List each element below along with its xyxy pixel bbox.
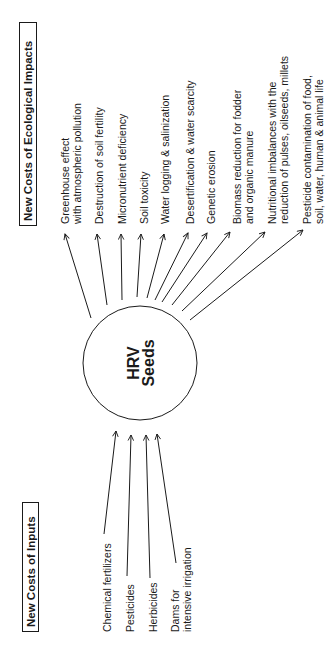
input-arrow	[157, 434, 176, 563]
input-label: Chemical fertilizers	[101, 543, 113, 632]
input-item: Herbicides	[146, 435, 159, 632]
output-label: with atmospheric pollution	[71, 103, 83, 225]
output-label: and organic manure	[243, 130, 255, 224]
output-label: Greenhouse effect	[59, 138, 71, 224]
output-arrow	[97, 234, 107, 305]
output-item: Soil toxicity	[137, 171, 150, 297]
input-item: Dams forintensive irrigation	[157, 434, 193, 632]
output-arrow	[121, 234, 122, 300]
inputs-header: New Costs of Inputs	[23, 503, 39, 632]
output-item: Destruction of soil fertility	[93, 107, 108, 305]
output-item: Micronutrient deficiency	[116, 113, 128, 300]
output-label: Biomass reduction for fodder	[231, 89, 243, 224]
output-arrow	[147, 234, 164, 298]
input-arrow	[127, 435, 131, 576]
outputs-header: New Costs of Ecological Impacts	[20, 23, 37, 226]
output-label: reduction of pulses, oilseeds, millets	[278, 56, 290, 224]
input-label: Pesticides	[124, 584, 136, 632]
inputs-header-text: New Costs of Inputs	[25, 516, 37, 627]
input-label: Herbicides	[147, 582, 159, 632]
output-label: Water logging & salinization	[159, 95, 171, 224]
output-items: Greenhouse effectwith atmospheric pollut…	[59, 56, 325, 320]
output-label: Nutritional imbalances with the	[266, 81, 278, 224]
input-arrow	[104, 431, 116, 534]
input-item: Chemical fertilizers	[101, 431, 117, 632]
output-label: Destruction of soil fertility	[93, 107, 105, 224]
output-arrow	[155, 233, 188, 300]
hrv-seeds-diagram: New Costs of Ecological Impacts New Cost…	[0, 0, 333, 662]
input-item: Pesticides	[124, 435, 136, 632]
output-arrow	[137, 234, 141, 297]
output-arrow	[162, 233, 207, 302]
outputs-header-text: New Costs of Ecological Impacts	[22, 41, 34, 221]
output-item: Water logging & salinization	[147, 95, 171, 298]
center-node: HRV Seeds	[83, 306, 197, 420]
output-label: soil, water, human & animal life	[313, 79, 325, 224]
output-arrow	[182, 232, 265, 311]
input-arrow	[146, 435, 150, 578]
output-label: Pesticide contamination of food,	[301, 75, 313, 224]
output-label: Micronutrient deficiency	[116, 113, 128, 224]
input-items: Chemical fertilizersPesticidesHerbicides…	[101, 431, 193, 632]
output-label: Desertification & water scarcity	[184, 80, 196, 224]
output-label: Soil toxicity	[138, 171, 150, 224]
center-label-line2: Seeds	[140, 339, 157, 386]
input-label: intensive irrigation	[181, 547, 193, 632]
output-label: Genetic erosion	[205, 150, 217, 224]
input-label: Dams for	[169, 589, 181, 632]
output-item: Greenhouse effectwith atmospheric pollut…	[59, 103, 92, 318]
output-arrow	[65, 234, 91, 318]
output-arrow	[190, 230, 303, 320]
